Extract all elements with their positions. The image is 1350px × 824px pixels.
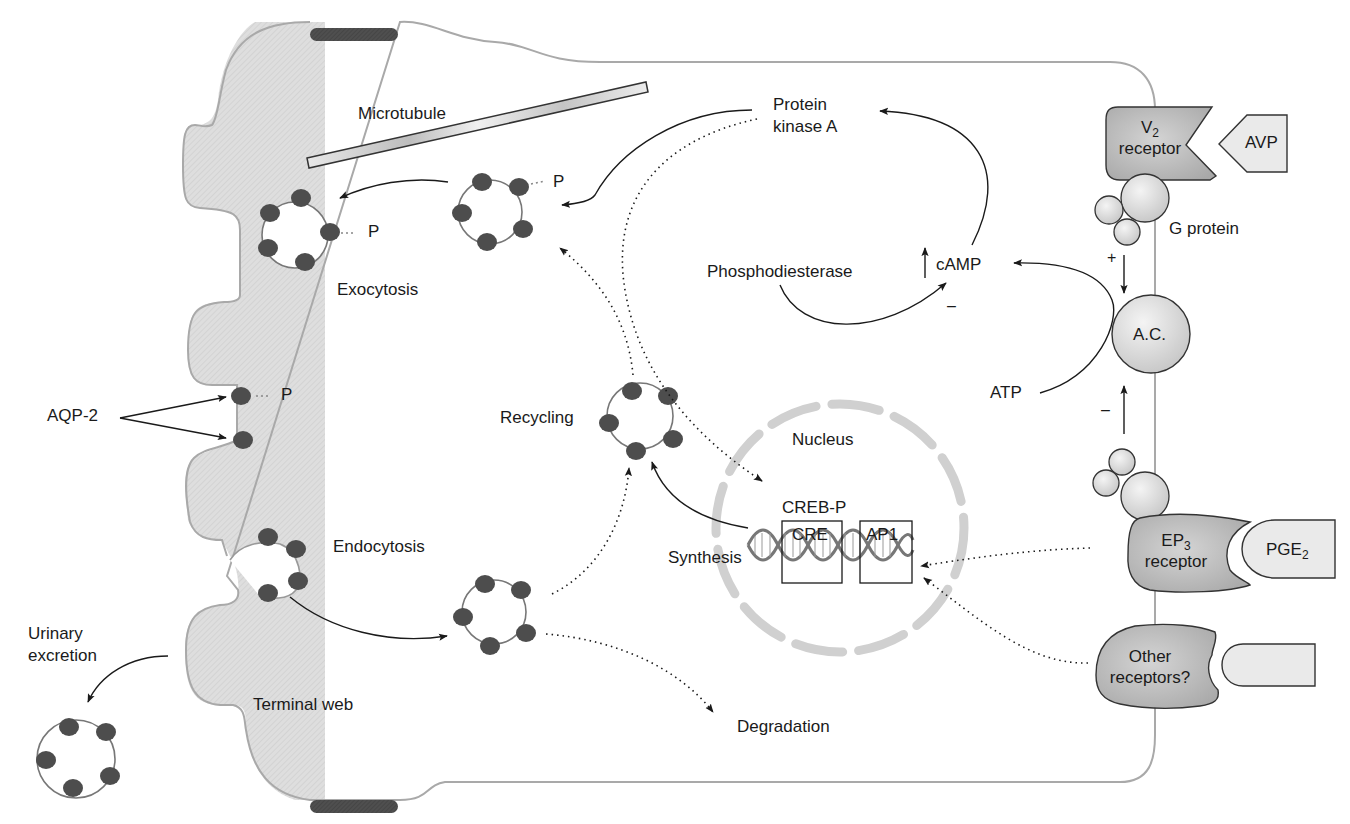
microtubule-label: Microtubule — [358, 104, 446, 124]
nucleus-label: Nucleus — [792, 430, 853, 450]
g-protein-gamma-ep3 — [1109, 449, 1135, 475]
aqp2-label: AQP-2 — [47, 406, 98, 426]
protein-kinase-a-label-line2: kinase A — [773, 117, 837, 137]
dotted-arrow-ep3-to-dna — [921, 548, 1090, 566]
microtubule — [307, 82, 648, 168]
vesicle-recycling — [599, 382, 683, 460]
tight-junction-bottom — [310, 800, 398, 813]
arrow-vesicle-to-apical — [340, 180, 448, 198]
pge2-subscript: 2 — [1302, 548, 1309, 562]
endocytosis-label: Endocytosis — [333, 537, 425, 557]
g-protein-label: G protein — [1169, 219, 1239, 239]
other-receptors-label: Other receptors? — [1098, 646, 1202, 688]
protein-kinase-a-label-line1: Protein — [773, 95, 827, 115]
ep3-receptor-label: EP3 receptor — [1134, 531, 1218, 572]
urinary-excretion-label-line2: excretion — [28, 646, 97, 666]
aqp2-particle — [233, 431, 253, 449]
recycling-label: Recycling — [500, 408, 574, 428]
arrow-pde-to-camp — [780, 283, 946, 324]
dotted-arrow-vesicle-to-recycling — [552, 468, 629, 594]
camp-label: cAMP — [936, 255, 981, 275]
ep3-receptor-subscript: 3 — [1184, 539, 1191, 553]
unknown-ligand — [1222, 644, 1315, 686]
other-receptors-line1: Other — [1129, 647, 1172, 666]
terminal-web-label: Terminal web — [253, 695, 353, 715]
phospho-label-vesicle: P — [553, 172, 564, 192]
atp-label: ATP — [990, 383, 1022, 403]
phospho-label-membrane: P — [281, 385, 292, 405]
g-protein-alpha-ep3 — [1121, 472, 1169, 520]
g-protein-beta-v2-ep3 — [1093, 470, 1119, 496]
adenylyl-cyclase-label: A.C. — [1133, 325, 1166, 345]
creb-p-label: CREB-P — [782, 498, 846, 518]
exocytosis-label: Exocytosis — [337, 280, 418, 300]
ep3-receptor-line2: receptor — [1145, 552, 1207, 571]
v2-receptor-line2: receptor — [1119, 139, 1181, 158]
phospho-label-exocytosis: P — [368, 222, 379, 242]
pge2-label: PGE2 — [1266, 540, 1309, 561]
cre-label: CRE — [792, 525, 828, 545]
inhibition-sign: – — [1101, 400, 1110, 420]
ap1-label: AP1 — [866, 525, 898, 545]
phosphodiesterase-label: Phosphodiesterase — [707, 262, 853, 282]
terminal-web-region — [183, 22, 325, 800]
pge2-name: PGE — [1266, 540, 1302, 559]
aqp2-particle-phosphorylated — [231, 387, 251, 405]
g-protein-alpha-v2 — [1121, 174, 1169, 222]
synthesis-label: Synthesis — [668, 548, 742, 568]
tight-junction-top — [310, 28, 398, 41]
arrow-pka-to-vesicle — [562, 110, 752, 205]
arrow-urinary-excretion — [88, 656, 168, 702]
vesicle-endocytosed — [453, 575, 536, 655]
stimulation-sign: + — [1107, 248, 1116, 268]
v2-receptor-label: V2 receptor — [1110, 118, 1190, 159]
urinary-excretion-label-line1: Urinary — [28, 624, 83, 644]
g-protein-gamma-v2 — [1114, 219, 1140, 245]
v2-receptor-name: V — [1141, 118, 1152, 137]
arrow-camp-to-pka — [880, 111, 988, 245]
dotted-arrow-degradation — [546, 634, 713, 712]
ep3-receptor-name: EP — [1161, 531, 1184, 550]
arrow-atp-to-camp — [1014, 263, 1114, 393]
g-protein-beta-v2 — [1095, 196, 1123, 224]
avp-label: AVP — [1245, 133, 1278, 153]
vesicle-phosphorylated — [452, 173, 545, 251]
degradation-label: Degradation — [737, 717, 830, 737]
other-receptors-line2: receptors? — [1110, 668, 1190, 687]
v2-receptor-subscript: 2 — [1152, 126, 1159, 140]
vesicle-excreted — [36, 718, 120, 798]
pde-inhibition-sign: – — [947, 296, 956, 316]
